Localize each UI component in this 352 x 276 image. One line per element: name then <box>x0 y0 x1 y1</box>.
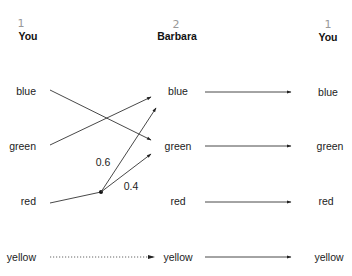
left-label-yellow: yellow <box>7 251 37 263</box>
left-label-green: green <box>9 140 36 152</box>
arrow-blue-to-green <box>50 90 151 140</box>
left-label-blue: blue <box>16 85 36 97</box>
arrow-green-to-blue <box>50 97 151 145</box>
middle-label-blue: blue <box>168 85 188 97</box>
right-label-blue: blue <box>318 86 338 98</box>
step-mark-left: 1 <box>18 17 25 30</box>
probability-upper: 0.6 <box>96 156 111 168</box>
middle-label-yellow: yellow <box>163 251 193 263</box>
middle-label-green: green <box>165 140 192 152</box>
right-label-yellow: yellow <box>314 251 344 263</box>
arrowhead-yellow <box>148 255 155 259</box>
left-label-red: red <box>21 195 36 207</box>
column-header-middle: Barbara <box>157 30 197 42</box>
column-header-right: You <box>318 31 337 43</box>
arrow-red-to-chance-node <box>50 192 101 203</box>
right-label-green: green <box>317 140 344 152</box>
right-label-red: red <box>318 195 333 207</box>
diagram: 1 2 1 You Barbara You blue green red yel… <box>0 0 352 276</box>
middle-label-red: red <box>170 195 185 207</box>
column-header-left: You <box>18 30 37 42</box>
step-mark-right: 1 <box>325 18 332 31</box>
probability-lower: 0.4 <box>124 180 139 192</box>
